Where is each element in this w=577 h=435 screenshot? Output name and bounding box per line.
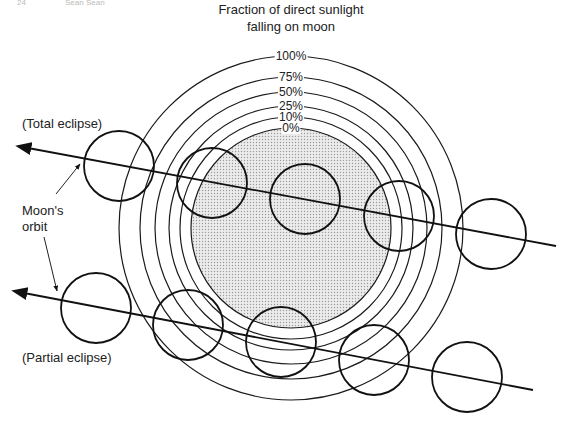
orbit-label-line-1: Moon's [22, 203, 64, 219]
ring-label: 0% [281, 122, 300, 134]
eclipse-diagram [0, 0, 577, 435]
moon-total-1 [84, 131, 154, 201]
ring-label: 50% [278, 86, 304, 98]
running-header-fragment: Sean Sean [65, 0, 105, 5]
moons-orbit-label: Moon's orbit [22, 203, 64, 235]
page-number-fragment: 24 [17, 0, 39, 5]
total-eclipse-label: (Total eclipse) [22, 116, 102, 132]
moon-partial-1 [61, 273, 131, 343]
ring-label: 75% [278, 71, 304, 83]
title-line-1: Fraction of direct sunlight [218, 1, 363, 18]
ring-label: 100% [275, 50, 308, 62]
umbra-shadow [191, 128, 391, 328]
title-line-2: falling on moon [218, 18, 363, 35]
diagram-title: Fraction of direct sunlight falling on m… [218, 1, 363, 35]
orbit-label-line-2: orbit [22, 219, 64, 235]
orbit-pointer-lower [44, 237, 57, 291]
partial-eclipse-label: (Partial eclipse) [22, 350, 112, 366]
umbra-fill [191, 128, 391, 328]
orbit-pointer-upper [56, 164, 80, 194]
